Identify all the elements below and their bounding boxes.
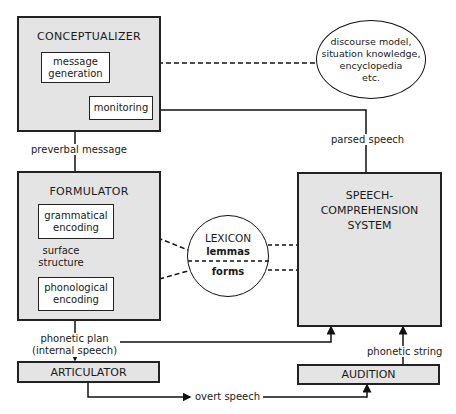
lexicon-title: LEXICON xyxy=(187,232,269,244)
phonological-encoding-box: phonological encoding xyxy=(38,277,114,311)
formulator-title: FORMULATOR xyxy=(19,185,159,198)
comprehension-title-line2: COMPREHENSION xyxy=(321,203,419,218)
comprehension-title-line1: SPEECH- xyxy=(346,188,393,203)
message-generation-box: message generation xyxy=(41,52,110,83)
speech-comprehension-box: SPEECH- COMPREHENSION SYSTEM xyxy=(297,172,442,327)
preverbal-message-label: preverbal message xyxy=(30,144,128,155)
lexicon-lemmas: lemmas xyxy=(187,246,269,257)
comprehension-title-line3: SYSTEM xyxy=(348,218,392,233)
monitoring-box: monitoring xyxy=(89,96,153,120)
knowledge-line3: encyclopedia xyxy=(340,60,403,72)
message-generation-line2: generation xyxy=(48,68,102,80)
phonetic-plan-line2: (internal speech) xyxy=(32,345,117,357)
audition-box: AUDITION xyxy=(297,364,440,385)
lexicon-forms: forms xyxy=(187,266,269,277)
phonetic-string-label: phonetic string xyxy=(366,346,443,357)
phonological-encoding-line2: encoding xyxy=(53,294,99,306)
arrow-overt-speech xyxy=(88,382,190,397)
grammatical-encoding-box: grammatical encoding xyxy=(38,204,114,239)
knowledge-line2: situation knowledge, xyxy=(322,48,421,60)
knowledge-ellipse: discourse model, situation knowledge, en… xyxy=(316,20,426,99)
phonetic-plan-line1: phonetic plan xyxy=(32,333,117,345)
phonetic-plan-label: phonetic plan (internal speech) xyxy=(32,333,117,357)
articulator-box: ARTICULATOR xyxy=(17,361,160,383)
message-generation-line1: message xyxy=(53,56,98,68)
knowledge-line4: etc. xyxy=(362,72,380,84)
surface-structure-line1: surface xyxy=(36,245,86,257)
grammatical-encoding-line1: grammatical xyxy=(44,210,107,222)
knowledge-line1: discourse model, xyxy=(331,36,412,48)
phonological-encoding-line1: phonological xyxy=(44,282,108,294)
surface-structure-line2: structure xyxy=(36,257,86,269)
grammatical-encoding-line2: encoding xyxy=(53,222,99,234)
overt-speech-label: overt speech xyxy=(193,391,262,402)
parsed-speech-label: parsed speech xyxy=(330,134,405,145)
surface-structure-label: surface structure xyxy=(36,245,86,269)
conceptualizer-title: CONCEPTUALIZER xyxy=(19,30,159,43)
arrow-internal-speech xyxy=(120,327,331,342)
